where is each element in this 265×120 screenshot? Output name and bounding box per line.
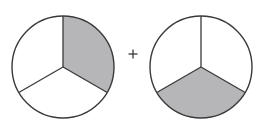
right-circle	[150, 16, 252, 118]
plus-operator	[129, 50, 138, 59]
left-circle	[12, 16, 114, 118]
fraction-diagram	[0, 0, 265, 120]
